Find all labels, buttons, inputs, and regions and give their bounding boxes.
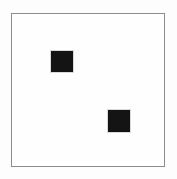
stimulus-canvas: White framed panel containing two small … (0, 0, 177, 179)
frame-interior (12, 14, 164, 166)
frame-border (11, 13, 165, 167)
square-lower-right[interactable] (108, 110, 130, 132)
square-upper-left[interactable] (51, 51, 73, 72)
